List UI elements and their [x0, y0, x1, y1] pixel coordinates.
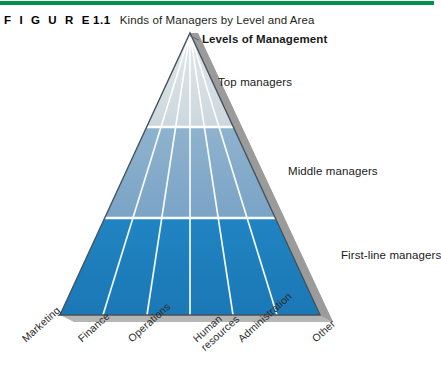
levels-of-management-heading: Levels of Management: [202, 33, 327, 45]
label-first-line-managers: First-line managers: [341, 249, 441, 261]
label-middle-managers: Middle managers: [288, 165, 378, 177]
label-top-managers: Top managers: [218, 76, 292, 88]
